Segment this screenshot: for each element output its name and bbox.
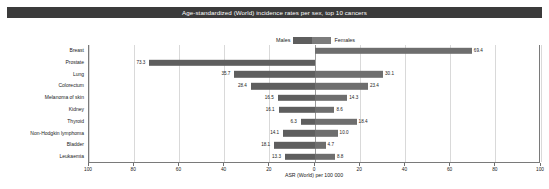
- chart-legend: Males Females: [276, 36, 355, 45]
- bar-row: 28.423.4: [89, 80, 539, 92]
- bar-row: 69.4: [89, 45, 539, 57]
- bar-female: [315, 130, 338, 136]
- bar-row: 14.110.0: [89, 128, 539, 140]
- bar-value-female: 14.3: [349, 95, 358, 101]
- legend-swatch-females: [312, 37, 331, 44]
- category-label: Lung: [0, 69, 84, 81]
- bar-value-male: 13.3: [272, 154, 281, 160]
- bar-row: 73.3: [89, 57, 539, 69]
- bar-value-female: 23.4: [370, 83, 379, 89]
- bar-row: 35.730.1: [89, 69, 539, 81]
- bar-row: 18.14.7: [89, 139, 539, 151]
- bar-male: [279, 107, 315, 113]
- bar-female: [315, 48, 472, 54]
- bar-row: 6.318.4: [89, 116, 539, 128]
- category-label: Prostate: [0, 57, 84, 69]
- bar-row: 16.18.6: [89, 104, 539, 116]
- bar-female: [315, 154, 335, 160]
- category-label: Colorectum: [0, 80, 84, 92]
- bar-value-female: 10.0: [340, 130, 349, 136]
- bar-male: [283, 130, 315, 136]
- bar-value-female: 8.8: [337, 154, 343, 160]
- bar-male: [285, 154, 315, 160]
- bar-value-male: 14.1: [270, 130, 279, 136]
- category-label: Thyroid: [0, 116, 84, 128]
- legend-label-males: Males: [276, 36, 290, 45]
- plot-area: 69.473.335.730.128.423.416.514.316.18.66…: [88, 45, 540, 163]
- bar-value-male: 73.3: [136, 60, 145, 66]
- bar-male: [278, 95, 315, 101]
- chart-title: Age-standardized (World) incidence rates…: [7, 7, 542, 18]
- bar-value-male: 35.7: [221, 71, 230, 77]
- x-axis-title: ASR (World) per 100 000: [88, 172, 540, 178]
- bar-female: [315, 71, 383, 77]
- bar-value-female: 8.6: [336, 107, 342, 113]
- bar-male: [234, 71, 315, 77]
- bar-male: [251, 83, 315, 89]
- bar-value-male: 18.1: [261, 142, 270, 148]
- category-label: Kidney: [0, 104, 84, 116]
- bar-value-male: 16.5: [265, 95, 274, 101]
- bar-female: [315, 142, 326, 148]
- chart-container: Age-standardized (World) incidence rates…: [0, 0, 549, 189]
- category-label: Leukaemia: [0, 151, 84, 163]
- bar-row: 16.514.3: [89, 92, 539, 104]
- bar-male: [149, 59, 315, 65]
- category-label: Breast: [0, 45, 84, 57]
- bar-value-female: 18.4: [359, 119, 368, 125]
- bar-female: [315, 107, 334, 113]
- bar-value-female: 4.7: [328, 142, 334, 148]
- bar-male: [301, 118, 315, 124]
- category-label: Bladder: [0, 139, 84, 151]
- bar-value-male: 6.3: [290, 119, 296, 125]
- bar-female: [315, 83, 368, 89]
- bar-male: [274, 142, 315, 148]
- legend-label-females: Females: [334, 36, 355, 45]
- legend-swatch-males: [293, 37, 312, 44]
- bar-row: 13.38.8: [89, 151, 539, 163]
- bar-value-male: 16.1: [266, 107, 275, 113]
- bar-value-female: 30.1: [385, 71, 394, 77]
- category-axis-labels: BreastProstateLungColorectumMelanoma of …: [0, 45, 84, 163]
- category-label: Melanoma of skin: [0, 92, 84, 104]
- bar-value-male: 28.4: [238, 83, 247, 89]
- bar-female: [315, 95, 347, 101]
- category-label: Non-Hodgkin lymphoma: [0, 128, 84, 140]
- bar-value-female: 69.4: [474, 48, 483, 54]
- bar-female: [315, 118, 357, 124]
- gridline: [541, 45, 542, 162]
